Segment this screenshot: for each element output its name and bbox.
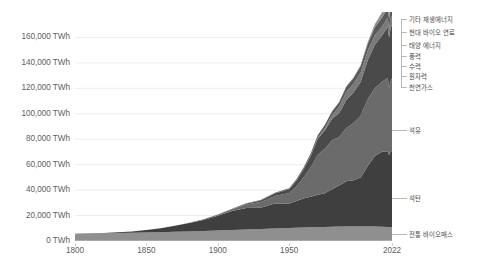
x-axis-tick-label: 1950 <box>280 247 298 255</box>
x-axis-tick-mark <box>146 243 147 246</box>
legend-connector-stub <box>392 130 401 131</box>
x-axis-tick-mark <box>289 243 290 246</box>
legend-connector-stub <box>392 234 401 235</box>
legend-label: 석유 <box>409 127 421 134</box>
y-axis-tick-label: 140,000 TWh <box>22 59 70 67</box>
y-axis-tick-label: 40,000 TWh <box>26 186 70 194</box>
legend-label: 기타 재생에너지 <box>409 16 453 23</box>
legend-label: 수력 <box>409 63 421 70</box>
legend-label: 원자력 <box>409 73 427 80</box>
x-axis-tick-mark <box>75 243 76 246</box>
y-axis-tick-label: 20,000 TWh <box>26 212 70 220</box>
y-axis-tick-label: 100,000 TWh <box>22 110 70 118</box>
legend-leader-line <box>401 234 407 235</box>
legend-label: 풍력 <box>409 53 421 60</box>
legend-leader-line <box>401 198 407 199</box>
x-axis-tick-label: 1800 <box>66 247 84 255</box>
x-axis-tick-label: 1900 <box>209 247 227 255</box>
legend-label: 천연가스 <box>409 84 433 91</box>
y-axis: 0 TWh20,000 TWh40,000 TWh60,000 TWh80,00… <box>0 0 75 241</box>
y-axis-tick-label: 120,000 TWh <box>22 84 70 92</box>
legend-label: 현대 바이오 연료 <box>409 29 455 36</box>
legend-leader-line <box>401 130 407 131</box>
y-axis-tick-label: 160,000 TWh <box>22 33 70 41</box>
y-axis-tick-label: 60,000 TWh <box>26 161 70 169</box>
y-axis-tick-label: 80,000 TWh <box>26 135 70 143</box>
legend-connector-stub <box>392 198 401 199</box>
legend-label: 태양 에너지 <box>409 42 441 49</box>
x-axis-tick-label: 1850 <box>137 247 155 255</box>
plot-area <box>75 12 392 241</box>
energy-consumption-stacked-area-chart: 0 TWh20,000 TWh40,000 TWh60,000 TWh80,00… <box>0 0 479 275</box>
stacked-area-svg <box>75 12 392 241</box>
legend-label: 전통 바이오매스 <box>409 231 453 238</box>
legend: 기타 재생에너지현대 바이오 연료태양 에너지풍력수력원자력천연가스석유석탄전통… <box>392 0 479 275</box>
legend-label: 석탄 <box>409 195 421 202</box>
x-axis-tick-mark <box>218 243 219 246</box>
legend-bracket-spine <box>401 19 402 88</box>
